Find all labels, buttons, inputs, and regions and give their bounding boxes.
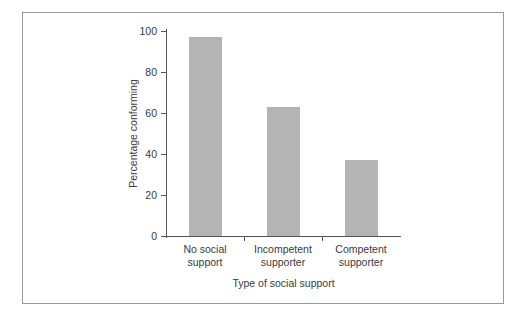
x-axis-tick-mark [322, 236, 323, 241]
y-axis-tick-label: 80 [145, 67, 157, 78]
y-axis-tick-mark [161, 236, 166, 237]
x-axis-category-label-line: Competent [306, 243, 416, 256]
y-axis-tick-label: 40 [145, 149, 157, 160]
x-axis-category-label-line: supporter [306, 256, 416, 269]
x-axis-title: Type of social support [166, 277, 401, 289]
y-axis-title: Percentage conforming [126, 0, 140, 31]
bar [189, 37, 222, 236]
y-axis-tick-label: 60 [145, 108, 157, 119]
y-axis-tick-mark [161, 31, 166, 32]
y-axis-tick-mark [161, 113, 166, 114]
x-axis-category-label: Competentsupporter [306, 243, 416, 269]
y-axis-tick-mark [161, 72, 166, 73]
y-axis-title-text: Percentage conforming [126, 31, 140, 236]
x-axis-line [166, 236, 401, 237]
y-axis-tick-label: 20 [145, 190, 157, 201]
y-axis-tick-label: 100 [139, 26, 157, 37]
bar [345, 160, 378, 236]
figure-root: 020406080100 No socialsupportIncompetent… [0, 0, 524, 322]
y-axis-tick-label: 0 [151, 231, 157, 242]
bar [267, 107, 300, 236]
x-axis-tick-mark [244, 236, 245, 241]
plot-area: 020406080100 [166, 31, 400, 236]
y-axis-tick-mark [161, 195, 166, 196]
y-axis-tick-mark [161, 154, 166, 155]
